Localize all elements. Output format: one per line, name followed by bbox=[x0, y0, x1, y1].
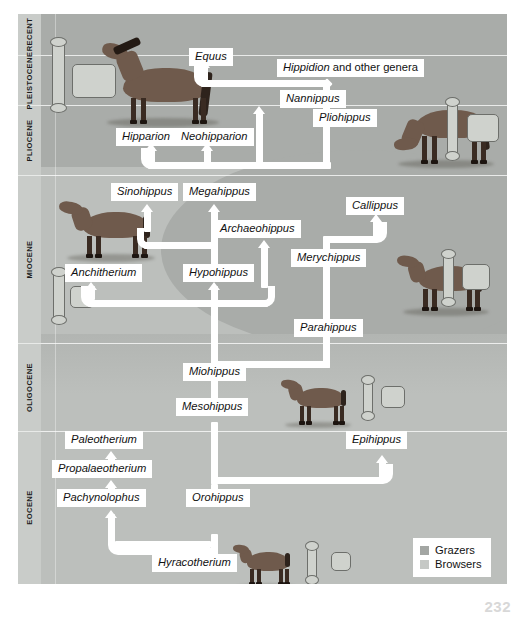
connector-orohippus-to-epihippus bbox=[211, 477, 379, 484]
epoch-eocene: EOCENE bbox=[18, 431, 41, 584]
epoch-pliocene: PLIOCENE bbox=[18, 105, 41, 176]
connector-nannippus-stem bbox=[256, 112, 263, 164]
taxon-label-propalaeotherium[interactable]: Propalaeotherium bbox=[52, 460, 152, 478]
page-number: 232 bbox=[484, 598, 511, 615]
legend: Grazers Browsers bbox=[413, 538, 491, 577]
arrow-to-propalaeotherium bbox=[105, 480, 117, 488]
taxon-label-megahippus[interactable]: Megahippus bbox=[183, 183, 256, 201]
limb-bone-fossil bbox=[53, 270, 65, 322]
limb-bone-fossil bbox=[363, 378, 373, 418]
arrow-to-archaeohippus bbox=[258, 240, 270, 248]
taxon-label-sinohippus[interactable]: Sinohippus bbox=[111, 183, 178, 201]
connector-main-trunk-eocene bbox=[211, 422, 218, 484]
limb-bone-fossil bbox=[447, 100, 458, 158]
taxon-label-callippus[interactable]: Callippus bbox=[346, 197, 404, 215]
arrow-to-epihippus bbox=[376, 455, 388, 463]
connector-sinohippus-stem bbox=[144, 210, 151, 232]
epoch-label: PLIOCENE bbox=[25, 119, 34, 161]
connector-miocene-basal-run bbox=[88, 300, 268, 307]
hyracotherium-horse-illustration bbox=[233, 540, 303, 584]
epoch-label: EOCENE bbox=[25, 490, 34, 524]
arrow-to-pachynolophus bbox=[105, 510, 117, 518]
arrow-to-nannippus bbox=[253, 106, 265, 114]
molar-tooth-fossil bbox=[462, 264, 490, 290]
legend-item-browsers: Browsers bbox=[420, 557, 482, 571]
arrow-to-sinohippus bbox=[141, 204, 153, 212]
taxon-label-pliohippus[interactable]: Pliohippus bbox=[313, 109, 377, 127]
taxon-label-archaeohippus[interactable]: Archaeohippus bbox=[214, 220, 301, 238]
taxon-label-orohippus[interactable]: Orohippus bbox=[186, 489, 250, 507]
taxon-label-hippidion[interactable]: Hippidion and other genera bbox=[277, 59, 424, 77]
limb-bone-fossil bbox=[443, 252, 454, 304]
connector-equus-stem bbox=[201, 66, 208, 82]
epoch-divider bbox=[41, 343, 507, 344]
taxon-label-pachynolophus[interactable]: Pachynolophus bbox=[57, 489, 146, 507]
molar-tooth-fossil bbox=[72, 64, 116, 98]
molar-tooth-fossil bbox=[331, 552, 351, 571]
mesohippus-horse-illustration bbox=[281, 374, 359, 430]
limb-bone-fossil bbox=[307, 544, 317, 582]
connector-pliocene-fan-run bbox=[148, 162, 331, 169]
epoch-oligocene: OLIGOCENE bbox=[18, 343, 41, 432]
molar-tooth-fossil bbox=[381, 386, 405, 408]
taxon-label-mesohippus[interactable]: Mesohippus bbox=[176, 398, 248, 416]
legend-item-grazers: Grazers bbox=[420, 543, 482, 557]
legend-label-grazers: Grazers bbox=[435, 544, 475, 556]
legend-label-browsers: Browsers bbox=[435, 558, 482, 570]
connector-to-equus-run bbox=[201, 80, 326, 87]
arrow-to-anchitherium bbox=[85, 282, 97, 290]
taxon-label-neohipparion[interactable]: Neohipparion bbox=[175, 128, 254, 146]
taxon-label-epihippus[interactable]: Epihippus bbox=[346, 431, 407, 449]
connector-callippus-stem bbox=[373, 220, 380, 238]
taxon-label-miohippus[interactable]: Miohippus bbox=[183, 363, 246, 381]
taxon-label-paleotherium[interactable]: Paleotherium bbox=[65, 431, 143, 449]
taxon-label-parahippus[interactable]: Parahippus bbox=[294, 319, 363, 337]
limb-bone-fossil bbox=[52, 40, 65, 110]
taxon-label-equus[interactable]: Equus bbox=[189, 48, 233, 66]
epoch-miocene: MIOCENE bbox=[18, 175, 41, 344]
arrow-to-hypohippus bbox=[208, 282, 220, 290]
arrow-to-megahippus bbox=[208, 204, 220, 212]
taxon-label-hypohippus[interactable]: Hypohippus bbox=[183, 264, 254, 282]
epoch-pleistocene: PLEISTOCENE bbox=[18, 55, 41, 106]
legend-swatch-grazers bbox=[420, 546, 429, 555]
taxon-label-nannippus[interactable]: Nannippus bbox=[280, 90, 346, 108]
taxon-label-anchitherium[interactable]: Anchitherium bbox=[65, 264, 142, 282]
taxon-label-merychippus[interactable]: Merychippus bbox=[291, 249, 366, 267]
epoch-label: MIOCENE bbox=[25, 240, 34, 278]
epoch-label: RECENT bbox=[25, 18, 34, 52]
connector-pachynolophus-stem bbox=[108, 514, 115, 542]
epoch-divider bbox=[41, 175, 507, 176]
horse-evolution-figure: RECENT PLEISTOCENE PLIOCENE MIOCENE OLIG… bbox=[0, 0, 525, 617]
epoch-axis: RECENT PLEISTOCENE PLIOCENE MIOCENE OLIG… bbox=[18, 14, 42, 584]
connector-archaeohippus-stem bbox=[261, 246, 268, 288]
arrow-to-paleotherium bbox=[105, 451, 117, 459]
connector-miohippus-trunk bbox=[211, 300, 218, 370]
phylogeny-canvas: Equus Hippidion and other genera Nannipp… bbox=[41, 14, 507, 584]
connector-epihippus-stem bbox=[379, 462, 386, 478]
legend-swatch-browsers bbox=[420, 560, 429, 569]
taxon-label-hyracotherium[interactable]: Hyracotherium bbox=[152, 554, 237, 572]
epoch-label: OLIGOCENE bbox=[25, 362, 34, 411]
epoch-recent: RECENT bbox=[18, 14, 41, 56]
connector-elbow bbox=[254, 286, 275, 307]
connector-hyracotherium-run bbox=[115, 541, 211, 548]
taxon-label-hipparion[interactable]: Hipparion bbox=[116, 128, 176, 146]
molar-tooth-fossil bbox=[467, 114, 499, 142]
epoch-label: PLEISTOCENE bbox=[25, 51, 34, 109]
